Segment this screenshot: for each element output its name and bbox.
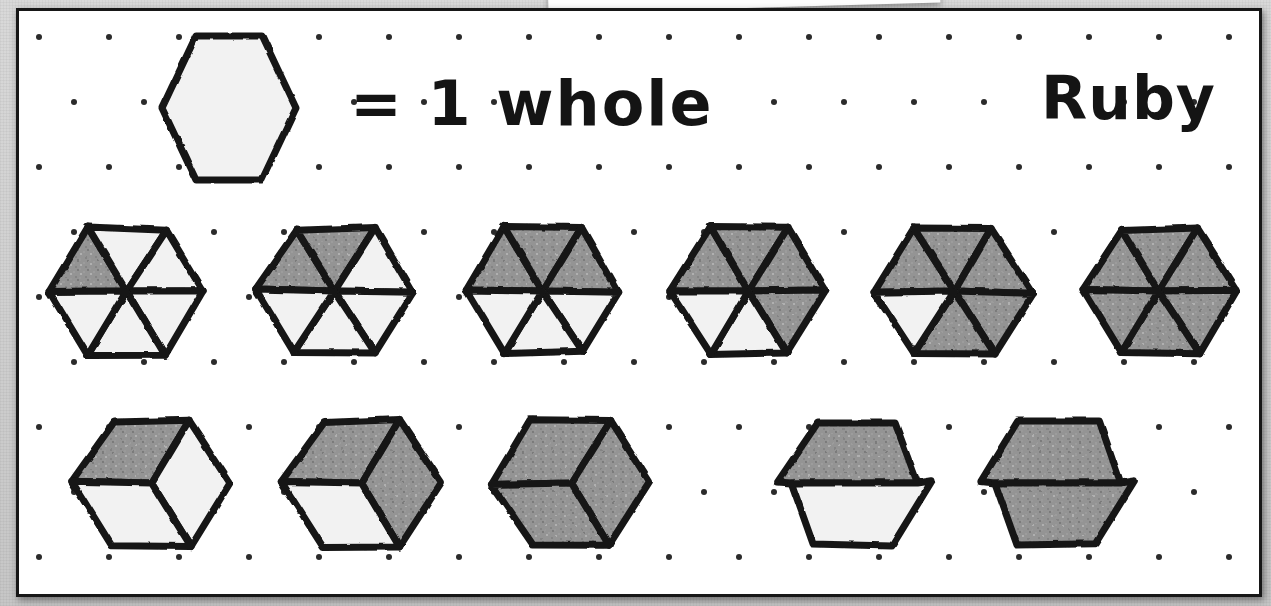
grid-dot (701, 489, 707, 495)
grid-dot (841, 229, 847, 235)
grid-dot (1086, 34, 1092, 40)
grid-dot (1051, 229, 1057, 235)
grid-dot (806, 164, 812, 170)
grid-dot (1226, 164, 1232, 170)
grid-dot (36, 424, 42, 430)
grid-dot (981, 99, 987, 105)
fraction-shape-1-over-3 (64, 403, 239, 563)
grid-dot (596, 164, 602, 170)
fraction-shape-3-over-3 (484, 403, 659, 563)
grid-dot (666, 164, 672, 170)
fraction-shape-2-over-6 (247, 211, 422, 371)
grid-dot (666, 554, 672, 560)
grid-dot (1156, 34, 1162, 40)
legend-whole-hexagon (159, 33, 299, 183)
grid-dot (771, 99, 777, 105)
grid-dot (1016, 164, 1022, 170)
grid-dot (246, 424, 252, 430)
grid-dot (736, 424, 742, 430)
fraction-shape-3-over-6 (455, 211, 630, 371)
grid-dot (526, 34, 532, 40)
grid-dot (1051, 359, 1057, 365)
grid-dot (526, 164, 532, 170)
fraction-shape-6-over-6 (1071, 211, 1246, 371)
grid-dot (736, 164, 742, 170)
grid-dot (631, 359, 637, 365)
grid-dot (36, 554, 42, 560)
grid-dot (456, 554, 462, 560)
grid-dot (386, 164, 392, 170)
grid-dot (1156, 424, 1162, 430)
grid-dot (946, 164, 952, 170)
grid-dot (106, 164, 112, 170)
legend-caption: = 1 whole (350, 67, 714, 140)
fraction-shape-1-over-6 (39, 211, 214, 371)
grid-dot (36, 34, 42, 40)
grid-dot (631, 229, 637, 235)
grid-dot (1086, 164, 1092, 170)
grid-dot (911, 99, 917, 105)
grid-dot (1226, 554, 1232, 560)
fraction-shape-1-over-2 (767, 403, 942, 563)
grid-dot (456, 424, 462, 430)
grid-dot (141, 99, 147, 105)
grid-dot (946, 554, 952, 560)
grid-dot (806, 34, 812, 40)
grid-dot (316, 34, 322, 40)
fraction-shape-4-over-6 (661, 211, 836, 371)
student-name-label: Ruby (1041, 63, 1216, 133)
grid-dot (456, 34, 462, 40)
grid-dot (71, 99, 77, 105)
grid-dot (666, 34, 672, 40)
grid-dot (666, 424, 672, 430)
grid-dot (596, 34, 602, 40)
grid-dot (876, 164, 882, 170)
fraction-shape-5-over-6 (867, 211, 1042, 371)
grid-dot (841, 359, 847, 365)
grid-dot (1191, 489, 1197, 495)
fraction-shape-2-over-2 (971, 403, 1146, 563)
grid-dot (1156, 554, 1162, 560)
fraction-shape-2-over-3 (274, 403, 449, 563)
grid-dot (946, 34, 952, 40)
worksheet-page: = 1 whole Ruby (16, 8, 1262, 597)
grid-dot (316, 164, 322, 170)
grid-dot (736, 34, 742, 40)
grid-dot (386, 34, 392, 40)
grid-dot (1226, 34, 1232, 40)
grid-dot (946, 424, 952, 430)
screenshot-stage: = 1 whole Ruby (0, 0, 1271, 606)
grid-dot (1226, 424, 1232, 430)
grid-dot (1016, 34, 1022, 40)
grid-dot (106, 34, 112, 40)
grid-dot (246, 554, 252, 560)
grid-dot (456, 164, 462, 170)
grid-dot (1156, 164, 1162, 170)
grid-dot (736, 554, 742, 560)
grid-dot (36, 164, 42, 170)
grid-dot (876, 34, 882, 40)
grid-dot (841, 99, 847, 105)
